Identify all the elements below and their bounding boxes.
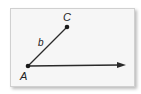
label-segment-b: b bbox=[38, 38, 44, 48]
point-c bbox=[65, 25, 70, 30]
ray-from-a bbox=[28, 65, 120, 66]
label-point-c: C bbox=[63, 12, 71, 23]
point-a bbox=[26, 64, 31, 69]
arrowhead-icon bbox=[117, 62, 126, 68]
label-point-a: A bbox=[20, 71, 27, 82]
segment-ac bbox=[28, 27, 67, 66]
